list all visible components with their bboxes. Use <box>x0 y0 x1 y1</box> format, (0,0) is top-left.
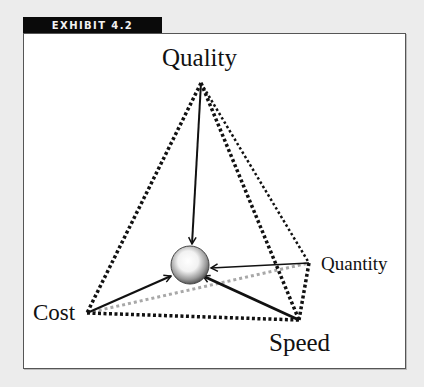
edge-quality-quantity <box>201 83 309 263</box>
arrow-quality <box>192 83 201 244</box>
node-label-cost: Cost <box>33 300 75 326</box>
node-label-quality: Quality <box>162 44 237 72</box>
center-sphere <box>171 246 209 284</box>
edge-quantity-speed <box>299 263 309 320</box>
edge-quality-speed <box>201 83 299 320</box>
edge-cost-speed <box>87 313 299 320</box>
node-label-quantity: Quantity <box>321 253 388 275</box>
node-label-speed: Speed <box>269 329 330 357</box>
arrow-cost <box>87 276 171 313</box>
